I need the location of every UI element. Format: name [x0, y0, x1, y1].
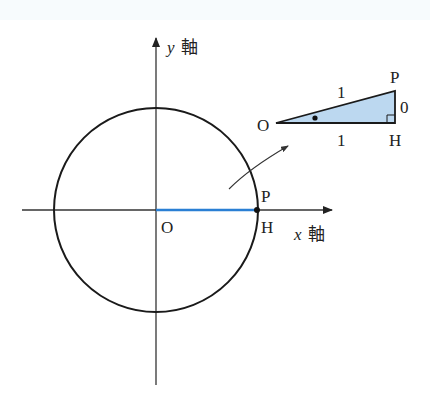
point-p-label: P	[261, 187, 270, 206]
y-axis-kanji-label: 軸	[181, 38, 198, 57]
point-h-label: H	[261, 218, 273, 237]
x-axis-kanji-label: 軸	[308, 225, 325, 244]
unit-circle-diagram: y 軸 x 軸 O P H O P H 1 1 0	[0, 0, 430, 407]
y-axis-var-label: y	[165, 38, 175, 57]
inset-triangle	[276, 91, 395, 123]
x-axis-var-label: x	[293, 225, 302, 244]
triangle-hypotenuse-label: 1	[337, 83, 346, 102]
triangle-vertex-o-label: O	[257, 116, 269, 135]
point-p-dot	[254, 207, 260, 213]
pointer-arrow	[229, 146, 288, 189]
triangle-vertex-h-label: H	[389, 131, 401, 150]
triangle-vertex-p-label: P	[390, 68, 399, 87]
origin-label: O	[161, 218, 173, 237]
triangle-base-label: 1	[337, 131, 346, 150]
triangle-height-label: 0	[400, 98, 409, 117]
angle-dot	[312, 115, 317, 120]
